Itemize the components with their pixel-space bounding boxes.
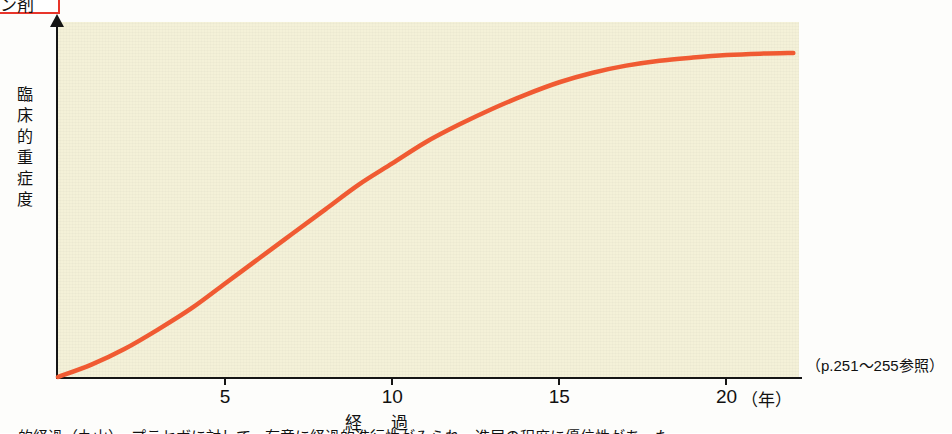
plot-area: [57, 22, 799, 378]
y-axis-char-4: 症: [14, 168, 36, 189]
x-axis-line: [57, 377, 802, 379]
y-axis-char-3: 重: [14, 147, 36, 168]
x-tick-0: [224, 377, 226, 385]
x-tick-2: [558, 377, 560, 385]
y-axis-char-2: 的: [14, 126, 36, 147]
figure-caption: 的経過（丸山）．プラセボに対して，有意に経過的進行性がみられ，進展の程度に優位性…: [18, 425, 685, 434]
y-axis-title: 臨 床 的 重 症 度: [14, 84, 36, 210]
y-axis-char-0: 臨: [14, 84, 36, 105]
figure-tag-box: ン剤: [0, 0, 60, 14]
y-axis-line: [56, 25, 58, 379]
reference-note: （p.251〜255参照）: [806, 354, 944, 375]
x-axis-unit-label: （年）: [741, 386, 792, 411]
x-tick-3: [725, 377, 727, 385]
figure-tag-label: ン剤: [0, 0, 34, 16]
x-tick-1: [391, 377, 393, 385]
x-tick-label-2: 15: [549, 386, 570, 408]
x-tick-label-1: 10: [382, 386, 403, 408]
y-axis-char-5: 度: [14, 189, 36, 210]
y-axis-char-1: 床: [14, 105, 36, 126]
x-tick-label-0: 5: [220, 386, 231, 408]
x-tick-label-3: 20: [716, 386, 737, 408]
